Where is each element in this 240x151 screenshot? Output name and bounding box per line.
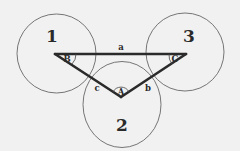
circle-label-2: 2 [116,115,128,135]
side-label-b: b [145,83,151,93]
side-label-a: a [118,42,124,52]
angle-label-c: C [172,54,179,64]
angle-label-b: B [63,54,70,64]
angle-arc-b [72,54,76,64]
circle-label-3: 3 [183,26,195,46]
triangle-circles-diagram: 1 3 2 a c b B C A [0,0,240,151]
side-label-c: c [94,83,99,93]
circle-3 [146,13,224,91]
circle-label-1: 1 [46,26,58,46]
angle-label-a: A [117,87,125,97]
